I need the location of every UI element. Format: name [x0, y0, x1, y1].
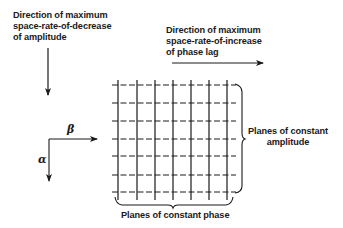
- phase-lag-direction-label: Direction of maximum space-rate-of-incre…: [166, 25, 262, 58]
- constant-amplitude-planes: [112, 85, 236, 192]
- phase-lag-direction-label-line-1: Direction of maximum: [166, 25, 262, 36]
- constant-phase-planes: [118, 80, 227, 200]
- alpha-symbol: α: [38, 153, 46, 166]
- constant-amplitude-label: Planes of constant amplitude: [248, 126, 328, 148]
- amplitude-direction-label: Direction of maximum space-rate-of-decre…: [13, 10, 111, 43]
- right-brace: [235, 84, 245, 193]
- phase-lag-direction-label-line-2: space-rate-of-increase: [166, 36, 262, 47]
- bottom-brace: [115, 197, 233, 208]
- amplitude-direction-label-line-1: Direction of maximum: [13, 10, 111, 21]
- alpha-beta-axes: [49, 139, 97, 181]
- phase-lag-direction-label-line-3: of phase lag: [166, 47, 262, 58]
- amplitude-direction-label-line-3: of amplitude: [13, 32, 111, 43]
- constant-amplitude-label-line-1: Planes of constant: [248, 126, 328, 137]
- beta-symbol: β: [67, 123, 74, 136]
- constant-amplitude-label-line-2: amplitude: [248, 137, 328, 148]
- amplitude-direction-label-line-2: space-rate-of-decrease: [13, 21, 111, 32]
- constant-phase-label: Planes of constant phase: [121, 210, 229, 221]
